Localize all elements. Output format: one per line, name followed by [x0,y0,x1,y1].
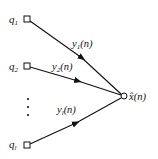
input-node-q2 [24,63,30,69]
signal-flow-diagram: q1 q2 ql y1(n) y2(n) yl(n) x̂(n) [0,0,158,159]
input-label-q1: q1 [9,13,18,27]
output-label: x̂(n) [128,91,146,103]
input-node-ql [24,142,30,148]
edge-1 [30,21,121,94]
input-node-q1 [24,16,30,22]
ellipsis-dots [27,98,29,116]
edge-label-y2: y2(n) [51,61,73,74]
input-label-ql: ql [9,138,17,152]
input-label-q2: q2 [9,60,19,74]
edge-label-y1: y1(n) [71,38,93,51]
edge-label-yl: yl(n) [56,104,76,117]
output-node [121,93,127,99]
